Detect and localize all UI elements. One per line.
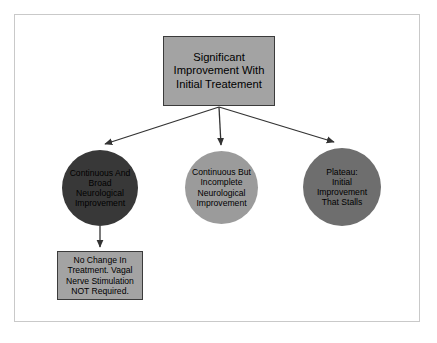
node-label: Significant Improvement With Initial Tre… (174, 51, 265, 91)
node-no-change-in-treatment[interactable]: No Change In Treatment. Vagal Nerve Stim… (57, 251, 143, 300)
node-label: No Change In Treatment. Vagal Nerve Stim… (66, 255, 134, 296)
node-significant-improvement[interactable]: Significant Improvement With Initial Tre… (163, 36, 275, 106)
node-label: Continuous But Incomplete Neurological I… (192, 167, 251, 208)
node-label: Plateau: Initial Improvement That Stalls (317, 167, 367, 208)
diagram-canvas: Significant Improvement With Initial Tre… (0, 0, 437, 343)
node-label: Continuous And Broad Neurological Improv… (70, 168, 131, 209)
node-plateau-initial-improvement-that-stalls[interactable]: Plateau: Initial Improvement That Stalls (303, 148, 381, 226)
node-continuous-and-broad-neurological-improvement[interactable]: Continuous And Broad Neurological Improv… (62, 150, 138, 226)
node-continuous-but-incomplete-neurological-improvement[interactable]: Continuous But Incomplete Neurological I… (185, 151, 258, 224)
